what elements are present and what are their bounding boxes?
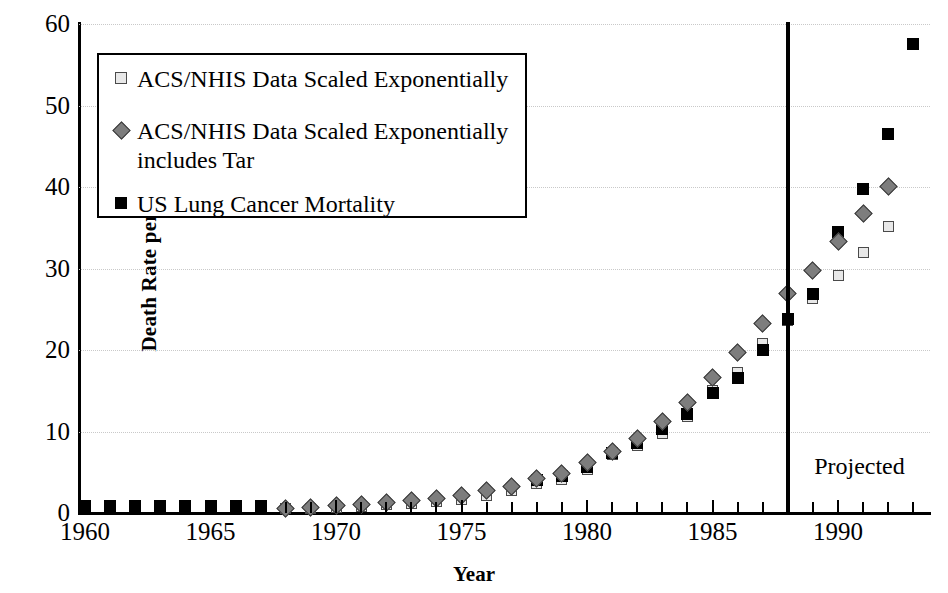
solid-square-icon (115, 197, 127, 209)
x-tick-1973 (410, 502, 412, 513)
gridline-10 (79, 432, 930, 434)
x-tick-1986 (737, 502, 739, 513)
x-tick-1983 (661, 502, 663, 513)
data-point (807, 288, 819, 300)
projection-divider-line (786, 22, 790, 515)
legend-label: US Lung Cancer Mortality (137, 190, 395, 219)
x-tick-1979 (561, 502, 563, 513)
y-tick-label-50: 50 (8, 93, 70, 118)
x-tick-label-1965: 1965 (166, 519, 256, 544)
x-tick-1975 (461, 500, 463, 513)
legend-item-2[interactable]: US Lung Cancer Mortality (105, 190, 525, 219)
data-point (858, 247, 869, 258)
x-tick-1976 (486, 502, 488, 513)
x-tick-1960 (84, 500, 86, 513)
data-point (833, 270, 844, 281)
x-tick-1982 (636, 502, 638, 513)
data-point (907, 38, 919, 50)
gridline-60 (79, 24, 930, 26)
legend-label: ACS/NHIS Data Scaled Exponentially (137, 65, 508, 94)
data-point (857, 183, 869, 195)
chart-legend: ACS/NHIS Data Scaled ExponentiallyACS/NH… (97, 53, 527, 218)
data-point (882, 128, 894, 140)
y-tick-label-10: 10 (8, 419, 70, 444)
x-tick-1993 (912, 502, 914, 513)
x-tick-1984 (686, 502, 688, 513)
diamond-icon (112, 121, 130, 139)
x-tick-1965 (210, 500, 212, 513)
x-tick-1992 (887, 502, 889, 513)
x-tick-label-1975: 1975 (417, 519, 507, 544)
x-tick-1980 (586, 500, 588, 513)
x-tick-1969 (310, 502, 312, 513)
x-tick-label-1985: 1985 (668, 519, 758, 544)
x-tick-1961 (109, 502, 111, 513)
x-tick-1970 (335, 500, 337, 513)
data-point (757, 344, 769, 356)
x-tick-1967 (260, 502, 262, 513)
legend-marker-diamond-icon (105, 117, 137, 137)
legend-item-0[interactable]: ACS/NHIS Data Scaled Exponentially (105, 65, 525, 94)
gridline-20 (79, 350, 930, 352)
projected-annotation: Projected (814, 454, 905, 478)
x-tick-1989 (812, 502, 814, 513)
x-tick-1963 (159, 502, 161, 513)
data-point (883, 221, 894, 232)
x-tick-label-1960: 1960 (40, 519, 130, 544)
x-tick-label-1970: 1970 (291, 519, 381, 544)
x-tick-1971 (360, 502, 362, 513)
y-tick-label-30: 30 (8, 256, 70, 281)
data-point (732, 372, 744, 384)
legend-marker-solid-square-icon (105, 190, 137, 209)
x-tick-1962 (134, 502, 136, 513)
x-tick-1990 (837, 500, 839, 513)
x-tick-1991 (862, 502, 864, 513)
data-point (707, 387, 719, 399)
legend-item-1[interactable]: ACS/NHIS Data Scaled Exponentially inclu… (105, 117, 525, 175)
x-tick-label-1980: 1980 (542, 519, 632, 544)
lung-cancer-mortality-chart: Death Rate per 100,000 Year 010203040506… (0, 0, 948, 593)
x-tick-1968 (285, 502, 287, 513)
x-tick-1978 (536, 502, 538, 513)
data-point (728, 343, 746, 361)
x-tick-label-1990: 1990 (793, 519, 883, 544)
data-point (703, 369, 721, 387)
x-tick-1966 (235, 502, 237, 513)
data-point (879, 177, 897, 195)
x-tick-1987 (762, 502, 764, 513)
x-tick-1977 (511, 502, 513, 513)
legend-marker-open-square-icon (105, 65, 137, 84)
x-tick-1964 (184, 502, 186, 513)
open-square-icon (115, 72, 127, 84)
y-tick-label-40: 40 (8, 174, 70, 199)
y-tick-label-20: 20 (8, 337, 70, 362)
x-tick-1985 (712, 500, 714, 513)
y-tick-label-60: 60 (8, 11, 70, 36)
data-point (804, 261, 822, 279)
x-tick-1974 (435, 502, 437, 513)
data-point (753, 315, 771, 333)
x-tick-1981 (611, 502, 613, 513)
x-tick-1972 (385, 502, 387, 513)
x-axis-title: Year (0, 562, 948, 587)
data-point (854, 204, 872, 222)
legend-label: ACS/NHIS Data Scaled Exponentially inclu… (137, 117, 508, 175)
